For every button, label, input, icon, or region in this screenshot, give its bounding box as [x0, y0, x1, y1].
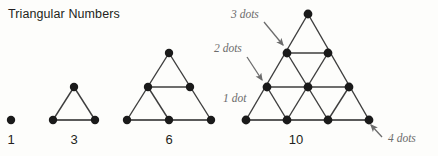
- dot: [242, 116, 251, 125]
- dot: [283, 116, 292, 125]
- edge: [74, 87, 95, 120]
- dot: [304, 10, 313, 19]
- arrow-4-dots-icon: [371, 125, 382, 137]
- annotation-label-4-dots: 4 dots: [388, 132, 416, 144]
- figure-label-1: 1: [7, 132, 14, 147]
- arrow-2-dots-icon: [247, 57, 262, 80]
- figure-canvas: Triangular Numbers: [0, 0, 438, 156]
- annotation-label-3-dots: 3 dots: [231, 8, 259, 20]
- dot: [345, 83, 354, 92]
- dot: [91, 116, 99, 124]
- dot: [165, 116, 173, 124]
- dot: [165, 49, 173, 57]
- dot: [365, 116, 374, 125]
- dot: [304, 83, 313, 92]
- arrow-3-dots-icon: [264, 22, 283, 45]
- triangular-number-10-figure: [242, 10, 374, 125]
- dot: [324, 116, 333, 125]
- figure-label-3: 3: [70, 132, 77, 147]
- annotation-label-1-dot: 1 dot: [223, 92, 246, 104]
- dot: [283, 49, 292, 58]
- dot: [207, 116, 215, 124]
- dot: [49, 116, 57, 124]
- figure-label-6: 6: [165, 132, 172, 147]
- dot: [123, 116, 131, 124]
- dot: [186, 83, 194, 91]
- edge: [148, 87, 169, 120]
- triangular-number-3-figure: [49, 83, 99, 124]
- edge: [53, 87, 74, 120]
- figure-label-10: 10: [289, 132, 303, 147]
- dot: [70, 83, 78, 91]
- triangular-number-1-figure: [7, 116, 15, 124]
- dot: [324, 49, 333, 58]
- edge: [328, 87, 349, 120]
- dot: [7, 116, 15, 124]
- dot: [263, 83, 272, 92]
- triangular-number-6-figure: [123, 49, 215, 124]
- dot: [144, 83, 152, 91]
- edge: [267, 87, 287, 120]
- annotation-label-2-dots: 2 dots: [214, 42, 242, 54]
- triangular-numbers-diagram: [0, 0, 438, 156]
